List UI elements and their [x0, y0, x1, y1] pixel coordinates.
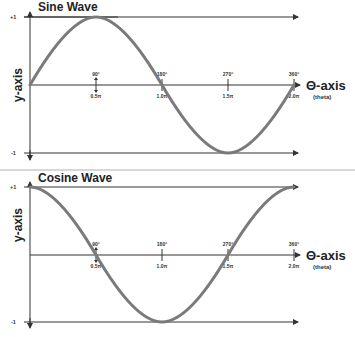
- cosine-ytick-plus1: +1: [10, 184, 16, 190]
- cosine-ytick-minus1: -1: [11, 319, 16, 325]
- cosine-title: Cosine Wave: [38, 171, 113, 185]
- cosine-xtick-rad-20: 2.0π: [289, 263, 300, 269]
- cosine-xtick-deg-360: 360°: [289, 241, 299, 247]
- sine-title: Sine Wave: [38, 0, 98, 14]
- sine-xtick-deg-90: 90°: [92, 71, 100, 77]
- cosine-ylabel: y-axis: [11, 208, 25, 242]
- sine-xtick-rad-05: 0.5π: [91, 93, 102, 99]
- sine-ylabel: y-axis: [11, 68, 25, 102]
- cosine-xlabel: Θ-axis: [306, 248, 346, 263]
- sine-xtick-deg-360: 360°: [289, 71, 299, 77]
- wave-diagram: Sine Wave +1 -1 y-axis 90° 180° 270° 360…: [0, 0, 355, 337]
- sine-xlabel-sub: (theta): [313, 94, 331, 100]
- cosine-xtick-deg-180: 180°: [157, 241, 167, 247]
- sine-ytick-plus1: +1: [10, 14, 16, 20]
- cosine-xtick-deg-90: 90°: [92, 241, 100, 247]
- sine-ytick-minus1: -1: [11, 150, 16, 156]
- cosine-xtick-rad-10: 1.0π: [157, 263, 168, 269]
- sine-xlabel: Θ-axis: [306, 78, 346, 93]
- cosine-panel: Cosine Wave +1 -1 y-axis 90° 180° 270° 3…: [10, 171, 346, 328]
- sine-xtick-deg-270: 270°: [223, 71, 233, 77]
- cosine-xlabel-sub: (theta): [313, 264, 331, 270]
- sine-xtick-rad-15: 1.5π: [223, 93, 234, 99]
- sine-panel: Sine Wave +1 -1 y-axis 90° 180° 270° 360…: [10, 0, 346, 160]
